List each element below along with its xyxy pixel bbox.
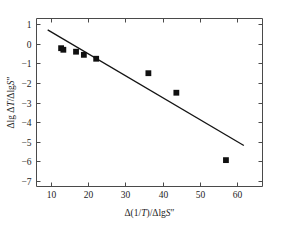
y-tick-label: −4 <box>21 118 31 128</box>
x-axis-tick-labels: 102030405060 <box>47 190 243 200</box>
scatter-plot: 102030405060 10−1−2−3−4−5−6−7 Δ(1/T)/Δlg… <box>0 0 281 227</box>
y-tick-label: −7 <box>21 177 31 187</box>
data-point-marker <box>73 49 79 55</box>
y-tick-label: −5 <box>21 138 31 148</box>
x-tick-label: 60 <box>233 190 243 200</box>
data-point-marker <box>93 56 99 62</box>
y-axis-title: Δlg ΔT/ΔlgS″ <box>6 76 16 128</box>
x-tick-label: 50 <box>196 190 206 200</box>
y-tick-label: 0 <box>27 40 32 50</box>
chart-figure: 102030405060 10−1−2−3−4−5−6−7 Δ(1/T)/Δlg… <box>0 0 281 227</box>
x-tick-label: 30 <box>121 190 131 200</box>
data-point-marker <box>145 70 151 76</box>
y-tick-label: −2 <box>21 79 31 89</box>
x-tick-label: 10 <box>47 190 57 200</box>
y-tick-label: −1 <box>21 59 31 69</box>
data-point-marker <box>60 47 66 53</box>
x-tick-label: 20 <box>84 190 94 200</box>
y-tick-label: −3 <box>21 99 31 109</box>
data-point-marker <box>173 90 179 96</box>
x-tick-label: 40 <box>159 190 169 200</box>
x-axis-title: Δ(1/T)/ΔlgS″ <box>125 208 175 219</box>
data-point-marker <box>81 52 87 58</box>
y-axis-tick-labels: 10−1−2−3−4−5−6−7 <box>21 20 31 187</box>
y-tick-label: 1 <box>27 20 32 30</box>
y-tick-label: −6 <box>21 157 31 167</box>
data-point-marker <box>223 157 229 163</box>
